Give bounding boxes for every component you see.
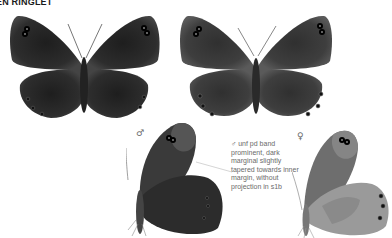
female-symbol: ♀ [297, 131, 304, 141]
female-underside-illustration [292, 128, 392, 238]
annotation-leader-line [196, 160, 236, 174]
page-title: EN RINGLET [0, 0, 53, 7]
female-upperside-illustration [176, 6, 336, 120]
annotation-text: ♂ unf pd band prominent, dark marginal s… [231, 140, 301, 192]
male-upperside-illustration [6, 10, 164, 122]
male-symbol: ♂ [136, 128, 144, 138]
